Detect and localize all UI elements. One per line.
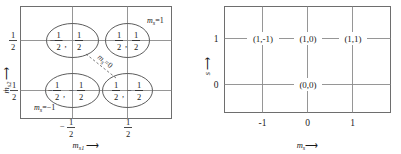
left-xtick-mhalf-sign: − (60, 121, 65, 131)
left-ytick-half-num: 1 (11, 30, 15, 40)
left-xtick-mhalf-num: 1 (69, 117, 73, 127)
left-xtick-minus-half: − 1 2 (60, 117, 75, 139)
state-tl-first-den: 2 (56, 42, 60, 52)
state-label-s1-m1: (1,1) (344, 34, 361, 44)
figure-root: − 1 2 , 1 2 1 2 , 1 (0, 0, 401, 154)
left-xtick-half: 1 2 (124, 117, 132, 139)
left-xtick-half-num: 1 (126, 117, 130, 127)
state-tr-second-num: 1 (134, 30, 138, 40)
left-ytick-mhalf-num: 1 (12, 80, 16, 90)
state-br-first-num: 1 (114, 80, 118, 90)
right-ytick-0: 0 (214, 80, 219, 90)
state-tr-first-den: 2 (117, 42, 121, 52)
left-panel: − 1 2 , 1 2 1 2 , 1 (0, 0, 196, 154)
right-y-axis-label-group: s ⟶ (202, 57, 212, 75)
annotation-ms0-base: ms=0 (95, 53, 114, 71)
state-tl-second-num: 1 (77, 30, 81, 40)
left-ytick-mhalf-den: 2 (12, 92, 16, 102)
annotation-ms-equals-1: ms=1 (147, 16, 164, 26)
state-tr-comma: , (125, 39, 127, 49)
state-br-second-num: 1 (137, 80, 141, 90)
state-tl-minus-sign: − (50, 35, 55, 45)
state-bl-first-num: 1 (55, 80, 59, 90)
left-ytick-half: 1 2 (9, 30, 17, 52)
state-label-tl: − 1 2 , 1 2 (50, 30, 83, 52)
right-xtick-0: 0 (305, 118, 310, 128)
state-label-s1-m0: (1,0) (299, 34, 316, 44)
state-tr-second-den: 2 (134, 42, 138, 52)
state-tl-second-den: 2 (77, 42, 81, 52)
state-br-minus-second: − (127, 85, 132, 95)
right-panel-svg: (1,-1) (1,0) (1,1) (0,0) 1 0 -1 0 1 ms⟶ … (196, 0, 401, 154)
annotation-ms1-base: ms=1 (147, 16, 164, 26)
state-tr-first-num: 1 (117, 30, 121, 40)
left-xtick-half-den: 2 (126, 129, 130, 139)
state-tl-first-num: 1 (56, 30, 60, 40)
state-br-comma: , (122, 89, 124, 99)
annotation-ms-equals-minus1: ms=−1 (34, 103, 55, 113)
right-panel: (1,-1) (1,0) (1,1) (0,0) 1 0 -1 0 1 ms⟶ … (196, 0, 401, 154)
state-bl-comma: , (63, 89, 65, 99)
state-bl-minus-second: − (69, 85, 74, 95)
state-label-s0-m0: (0,0) (299, 80, 316, 90)
state-br-second-den: 2 (137, 92, 141, 102)
right-y-axis-label: s ⟶ (202, 57, 212, 75)
left-y-axis-label: ms2 ⟶ (1, 67, 12, 94)
state-bl-minus-first: − (48, 85, 53, 95)
state-br-first-den: 2 (114, 92, 118, 102)
annotation-msm1-base: ms=−1 (34, 103, 55, 113)
left-ytick-half-den: 2 (11, 42, 15, 52)
right-ytick-1: 1 (214, 34, 219, 44)
state-label-s1-m-1: (1,-1) (253, 34, 273, 44)
left-y-axis-label-group: ms2 ⟶ (1, 67, 12, 94)
state-bl-second-den: 2 (79, 92, 83, 102)
left-panel-svg: − 1 2 , 1 2 1 2 , 1 (0, 0, 196, 154)
left-x-axis-label: ms1 ⟶ (73, 140, 100, 151)
state-tl-comma: , (65, 39, 67, 49)
right-x-axis-label: ms⟶ (297, 140, 319, 151)
state-bl-first-den: 2 (55, 92, 59, 102)
annotation-ms-equals-0: ms=0 (95, 53, 114, 71)
right-xtick-minus1: -1 (259, 118, 267, 128)
right-xtick-1: 1 (350, 118, 355, 128)
state-bl-second-num: 1 (79, 80, 83, 90)
left-xtick-mhalf-den: 2 (69, 129, 73, 139)
